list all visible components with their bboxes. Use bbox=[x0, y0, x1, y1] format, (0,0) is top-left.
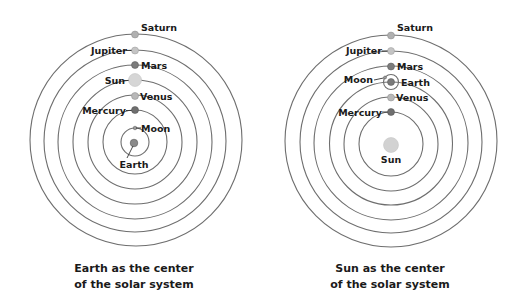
geocentric-model: Earth Moon Mercury Venus Sun Mars Jupite… bbox=[30, 22, 242, 291]
jupiter-label: Jupiter bbox=[345, 45, 382, 56]
mercury-label: Mercury bbox=[82, 105, 127, 116]
mercury-planet-icon bbox=[132, 107, 139, 114]
mars-label: Mars bbox=[397, 61, 424, 72]
earth-planet-icon bbox=[130, 139, 138, 147]
moon-label: Moon bbox=[141, 123, 171, 134]
moon-label: Moon bbox=[344, 74, 374, 85]
venus-label: Venus bbox=[140, 91, 173, 102]
moon-icon bbox=[384, 76, 387, 79]
heliocentric-caption-line-2: of the solar system bbox=[330, 278, 450, 291]
moon-leader-line bbox=[374, 78, 384, 80]
earth-planet-icon bbox=[388, 79, 395, 86]
geocentric-caption-line-1: Earth as the center bbox=[74, 262, 194, 275]
venus-planet-icon bbox=[388, 94, 395, 101]
jupiter-planet-icon bbox=[132, 47, 139, 54]
heliocentric-caption-line-1: Sun as the center bbox=[335, 262, 445, 275]
mercury-label: Mercury bbox=[338, 107, 383, 118]
mars-planet-icon bbox=[388, 63, 395, 70]
sun-icon bbox=[129, 74, 142, 87]
saturn-label: Saturn bbox=[397, 22, 433, 33]
sun-label: Sun bbox=[105, 75, 126, 86]
mercury-planet-icon bbox=[388, 109, 395, 116]
solar-system-diagrams: Earth Moon Mercury Venus Sun Mars Jupite… bbox=[0, 0, 521, 308]
saturn-label: Saturn bbox=[141, 22, 177, 33]
jupiter-label: Jupiter bbox=[90, 45, 127, 56]
venus-label: Venus bbox=[396, 92, 429, 103]
jupiter-planet-icon bbox=[388, 48, 395, 55]
geocentric-caption-line-2: of the solar system bbox=[74, 278, 194, 291]
mars-label: Mars bbox=[141, 60, 168, 71]
earth-label: Earth bbox=[401, 77, 430, 88]
saturn-planet-icon bbox=[132, 31, 139, 38]
venus-planet-icon bbox=[132, 93, 139, 100]
sun-label: Sun bbox=[381, 154, 402, 165]
saturn-planet-icon bbox=[388, 32, 395, 39]
mars-planet-icon bbox=[132, 62, 139, 69]
heliocentric-model: Sun Mercury Venus Earth Moon Mars Jupite… bbox=[285, 22, 497, 291]
sun-icon bbox=[384, 138, 399, 153]
earth-label: Earth bbox=[120, 159, 149, 170]
